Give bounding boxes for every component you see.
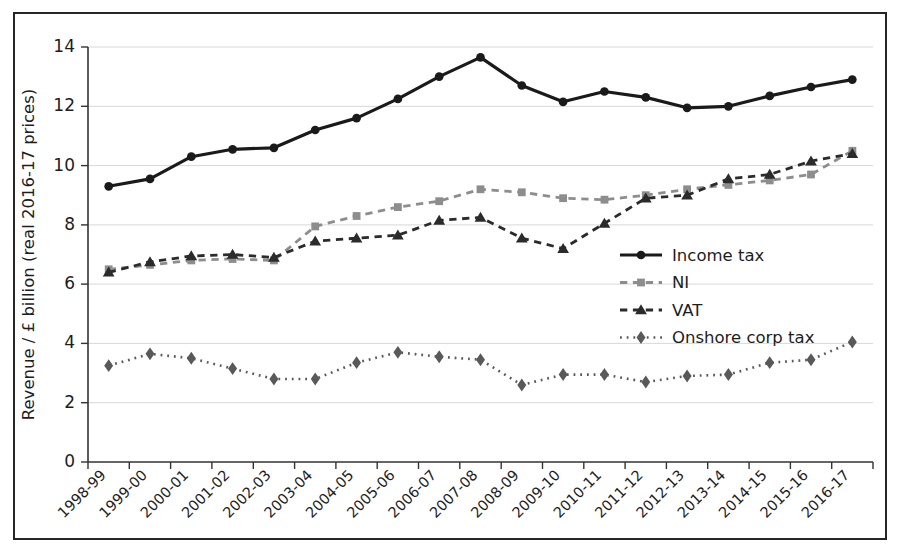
legend-label: Onshore corp tax bbox=[672, 328, 815, 347]
data-point bbox=[477, 185, 485, 193]
y-axis-title-text: Revenue / £ billion (real 2016-17 prices… bbox=[19, 89, 38, 421]
data-point bbox=[352, 114, 361, 123]
chart-page: 02468101214 1998-991999-002000-012001-02… bbox=[0, 0, 899, 553]
data-point bbox=[848, 336, 857, 349]
data-point bbox=[724, 102, 733, 111]
data-point bbox=[394, 203, 402, 211]
legend-label: Income tax bbox=[672, 246, 765, 265]
data-point bbox=[311, 126, 320, 135]
data-point bbox=[517, 81, 526, 90]
data-point bbox=[311, 373, 320, 386]
legend-item-vat[interactable]: VAT bbox=[620, 301, 703, 320]
data-point bbox=[559, 194, 567, 202]
data-point bbox=[353, 212, 361, 220]
data-point bbox=[599, 218, 611, 228]
data-point bbox=[683, 103, 692, 112]
data-point bbox=[765, 356, 774, 369]
data-point bbox=[600, 87, 609, 96]
y-tick-label: 2 bbox=[64, 392, 75, 412]
data-point bbox=[807, 83, 816, 92]
legend-label: NI bbox=[672, 273, 689, 292]
data-point bbox=[518, 188, 526, 196]
series-income-tax bbox=[104, 53, 856, 191]
y-tick-label: 8 bbox=[64, 214, 75, 234]
legend-marker-swatch bbox=[637, 251, 646, 260]
data-point bbox=[600, 368, 609, 381]
data-point bbox=[187, 352, 196, 365]
y-tick-label: 10 bbox=[53, 155, 75, 175]
line-chart: 02468101214 1998-991999-002000-012001-02… bbox=[0, 0, 899, 553]
data-point bbox=[476, 53, 485, 62]
data-point bbox=[765, 92, 774, 101]
data-point bbox=[848, 75, 857, 84]
y-axis-title: Revenue / £ billion (real 2016-17 prices… bbox=[19, 89, 38, 421]
data-point bbox=[146, 347, 155, 360]
data-point bbox=[641, 93, 650, 102]
data-point bbox=[435, 72, 444, 81]
x-axis-tick-labels: 1998-991999-002000-012001-022002-032003-… bbox=[55, 467, 853, 521]
y-tick-label: 4 bbox=[64, 332, 75, 352]
data-point bbox=[559, 97, 568, 106]
data-point bbox=[516, 233, 528, 243]
data-point bbox=[270, 143, 279, 152]
data-point bbox=[352, 356, 361, 369]
y-tick-label: 6 bbox=[64, 273, 75, 293]
data-point bbox=[394, 95, 403, 104]
y-axis-tick-labels: 02468101214 bbox=[53, 36, 75, 471]
data-point bbox=[807, 353, 816, 366]
data-point bbox=[517, 379, 526, 392]
y-axis bbox=[81, 47, 88, 462]
legend-marker-swatch bbox=[637, 331, 646, 344]
data-point bbox=[807, 171, 815, 179]
legend-marker-swatch bbox=[637, 279, 645, 287]
data-point bbox=[559, 368, 568, 381]
data-point bbox=[309, 236, 321, 246]
data-point bbox=[311, 223, 319, 231]
data-point bbox=[228, 145, 237, 154]
data-point bbox=[557, 243, 569, 253]
data-point bbox=[228, 362, 237, 375]
data-point bbox=[435, 350, 444, 363]
y-tick-label: 14 bbox=[53, 36, 75, 56]
data-point bbox=[683, 370, 692, 383]
data-point bbox=[104, 359, 113, 372]
data-point bbox=[435, 197, 443, 205]
legend-item-income-tax[interactable]: Income tax bbox=[620, 246, 765, 265]
data-point bbox=[601, 196, 609, 204]
data-point bbox=[104, 182, 113, 191]
data-point bbox=[724, 368, 733, 381]
data-point bbox=[144, 256, 156, 266]
legend-item-ni[interactable]: NI bbox=[620, 273, 689, 292]
legend-label: VAT bbox=[672, 301, 703, 320]
chart-legend: Income taxNIVATOnshore corp tax bbox=[620, 246, 815, 348]
legend-item-onshore-corp-tax[interactable]: Onshore corp tax bbox=[620, 328, 815, 347]
data-point bbox=[269, 373, 278, 386]
series-line bbox=[109, 57, 853, 186]
data-point bbox=[476, 353, 485, 366]
data-point bbox=[641, 376, 650, 389]
data-point bbox=[723, 173, 735, 183]
data-point bbox=[393, 346, 402, 359]
data-point bbox=[146, 175, 155, 184]
y-tick-label: 0 bbox=[64, 451, 75, 471]
y-tick-label: 12 bbox=[53, 95, 75, 115]
data-point bbox=[187, 152, 196, 161]
x-axis bbox=[88, 462, 873, 469]
